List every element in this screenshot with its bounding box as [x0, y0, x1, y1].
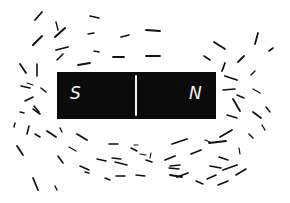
iron-filing [214, 42, 225, 49]
iron-filing [58, 156, 63, 163]
pole-divider [135, 75, 137, 116]
iron-filing [33, 178, 38, 190]
iron-filing [255, 33, 258, 44]
iron-filing [165, 156, 175, 160]
iron-filing [85, 172, 89, 173]
iron-filing [90, 16, 99, 18]
iron-filing [253, 112, 261, 118]
iron-filing [35, 134, 40, 137]
south-pole-label: S [70, 83, 81, 103]
iron-filing [239, 148, 240, 154]
iron-filing [253, 89, 260, 93]
iron-filing [35, 12, 42, 20]
iron-filing [269, 48, 273, 51]
iron-filing [146, 30, 160, 31]
iron-filing [219, 157, 228, 160]
iron-filing [146, 160, 152, 162]
iron-filing [223, 165, 237, 170]
iron-filing [21, 86, 30, 88]
iron-filing [105, 178, 110, 180]
iron-filing [225, 76, 237, 80]
iron-filing [172, 139, 187, 144]
iron-filing [97, 159, 106, 161]
iron-filing [33, 36, 42, 45]
bar-magnet: S N [57, 72, 216, 119]
iron-filing [204, 56, 210, 60]
iron-filing [115, 162, 127, 165]
iron-filing [218, 181, 228, 185]
iron-filing [78, 63, 90, 65]
iron-filing [47, 131, 56, 137]
iron-filing [210, 166, 221, 168]
iron-filing [88, 33, 94, 34]
iron-filing [251, 71, 255, 75]
iron-filing [14, 123, 15, 127]
iron-filing [266, 107, 270, 112]
iron-filing [249, 134, 253, 138]
iron-filing [150, 153, 151, 158]
iron-filing [223, 89, 235, 90]
iron-filing [57, 54, 63, 60]
iron-filing [262, 125, 265, 130]
iron-filing [121, 35, 129, 37]
magnet-diagram: S N [0, 0, 290, 203]
iron-filing [196, 181, 203, 184]
iron-filing [207, 175, 216, 179]
iron-filing [60, 128, 62, 132]
iron-filing [56, 47, 68, 50]
iron-filing [170, 165, 180, 166]
iron-filing [136, 175, 145, 176]
iron-filing [237, 95, 244, 98]
iron-filing [238, 56, 244, 62]
iron-filing [80, 166, 89, 170]
iron-filing [69, 147, 76, 151]
iron-filing [220, 130, 232, 137]
iron-filing [227, 115, 237, 118]
iron-filing [27, 83, 33, 85]
iron-filing [169, 168, 179, 169]
iron-filing [205, 140, 210, 142]
iron-filing [20, 112, 24, 113]
iron-filing [112, 158, 121, 159]
iron-filing [41, 88, 46, 92]
north-pole-label: N [189, 83, 202, 103]
iron-filing [140, 154, 146, 155]
iron-filing [77, 134, 87, 140]
iron-filing [233, 99, 240, 111]
iron-filing [222, 63, 225, 71]
iron-filing [236, 169, 246, 175]
iron-filing [55, 28, 65, 37]
iron-filing [131, 148, 137, 151]
iron-filing [191, 150, 201, 154]
iron-filing [55, 186, 57, 190]
iron-filing [56, 22, 58, 30]
iron-filing [209, 141, 226, 143]
iron-filing [20, 64, 26, 73]
iron-filing [94, 51, 99, 52]
iron-filing [25, 97, 33, 101]
iron-filing [27, 126, 29, 134]
iron-filing [17, 146, 23, 155]
